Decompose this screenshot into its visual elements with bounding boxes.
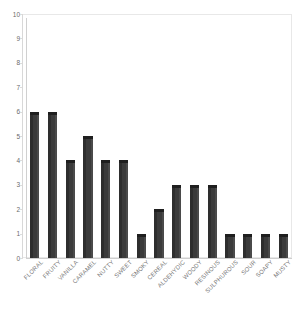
bar-highlight (197, 185, 199, 258)
y-axis-tick-labels: 012345678910 (0, 0, 20, 310)
bar-top-face (261, 234, 270, 237)
bar-left-face (66, 160, 69, 258)
y-axis-tick-label: 3 (2, 181, 20, 188)
y-axis-tick-label: 5 (2, 133, 20, 140)
bar-highlight (91, 136, 93, 258)
bar (66, 160, 75, 258)
bar-top-face (119, 160, 128, 163)
bar-top-face (66, 160, 75, 163)
bar-left-face (279, 234, 282, 258)
bar-left-face (119, 160, 122, 258)
bar (83, 136, 92, 258)
bar-highlight (162, 209, 164, 258)
bar (243, 234, 252, 258)
bar-left-face (225, 234, 228, 258)
y-axis-tick-label: 4 (2, 157, 20, 164)
bar-top-face (225, 234, 234, 237)
bar-highlight (55, 112, 57, 258)
bar-highlight (37, 112, 39, 258)
bar-highlight (233, 234, 235, 258)
bar-highlight (144, 234, 146, 258)
bar (48, 112, 57, 258)
bar-highlight (126, 160, 128, 258)
bar-top-face (190, 185, 199, 188)
bar-top-face (48, 112, 57, 115)
bar (30, 112, 39, 258)
bar-top-face (154, 209, 163, 212)
bar-left-face (208, 185, 211, 258)
chart-title (0, 0, 308, 5)
y-axis-tick-label: 10 (2, 11, 20, 18)
bar-highlight (286, 234, 288, 258)
bar (137, 234, 146, 258)
y-axis-tick-label: 7 (2, 84, 20, 91)
bar-highlight (250, 234, 252, 258)
bar-top-face (83, 136, 92, 139)
bar (172, 185, 181, 258)
x-axis-tick-label: MUSTY (273, 259, 294, 280)
bar-left-face (83, 136, 86, 258)
y-axis-tick-label: 0 (2, 255, 20, 262)
bar-highlight (73, 160, 75, 258)
bar-left-face (30, 112, 33, 258)
y-axis-tick-label: 1 (2, 230, 20, 237)
x-axis-tick-label: FLORAL (23, 259, 45, 281)
y-axis-tick-mark (20, 258, 23, 259)
bar-top-face (30, 112, 39, 115)
y-axis-tick-label: 6 (2, 108, 20, 115)
bars-layer (26, 14, 292, 258)
x-axis-tick-label: SULPHUROUS (204, 259, 240, 295)
bar-highlight (215, 185, 217, 258)
x-axis-tick-label: SOAPY (255, 259, 275, 279)
bar-highlight (179, 185, 181, 258)
bar-top-face (208, 185, 217, 188)
bar-highlight (108, 160, 110, 258)
bar-top-face (137, 234, 146, 237)
bar-top-face (101, 160, 110, 163)
bar-left-face (48, 112, 51, 258)
bar-left-face (261, 234, 264, 258)
y-axis-tick-label: 9 (2, 35, 20, 42)
bar-left-face (190, 185, 193, 258)
bar-left-face (101, 160, 104, 258)
bar (101, 160, 110, 258)
bar-highlight (268, 234, 270, 258)
x-axis-tick-label: NUTTY (96, 259, 116, 279)
bar (154, 209, 163, 258)
x-axis-tick-label: SWEET (113, 259, 134, 280)
bar (279, 234, 288, 258)
bar (190, 185, 199, 258)
x-axis-tick-labels: FLORALFRUITYVANILLACARAMELNUTTYSWEETSMOK… (26, 259, 292, 310)
bar-chart: 012345678910 FLORALFRUITYVANILLACARAMELN… (0, 0, 308, 310)
bar (261, 234, 270, 258)
bar-left-face (137, 234, 140, 258)
bar-left-face (243, 234, 246, 258)
bar-left-face (154, 209, 157, 258)
y-axis-tick-label: 8 (2, 59, 20, 66)
bar (225, 234, 234, 258)
bar (208, 185, 217, 258)
bar-top-face (172, 185, 181, 188)
y-axis-tick-label: 2 (2, 206, 20, 213)
y-axis-line (22, 14, 23, 258)
bar (119, 160, 128, 258)
bar-left-face (172, 185, 175, 258)
bar-top-face (243, 234, 252, 237)
bar-top-face (279, 234, 288, 237)
